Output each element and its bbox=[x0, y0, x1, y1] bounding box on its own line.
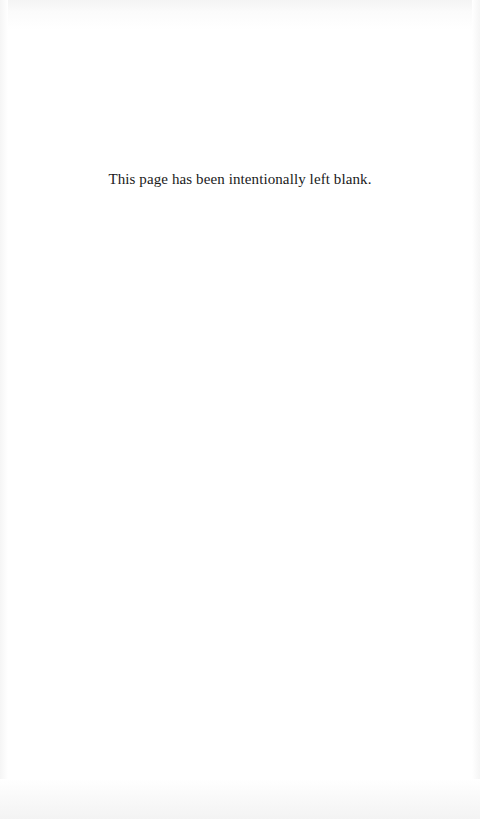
scan-bleed-bottom bbox=[0, 779, 480, 819]
scan-edge-left bbox=[0, 0, 8, 819]
document-page: This page has been intentionally left bl… bbox=[0, 0, 480, 819]
scan-bleed-top bbox=[0, 0, 480, 30]
scan-edge-right bbox=[472, 0, 480, 819]
blank-page-notice: This page has been intentionally left bl… bbox=[0, 171, 480, 188]
